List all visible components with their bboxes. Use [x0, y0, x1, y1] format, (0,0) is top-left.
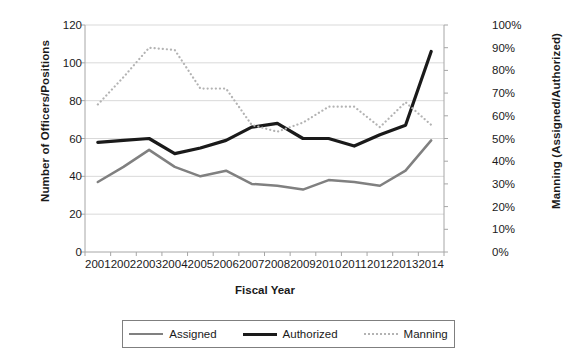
legend-item-authorized: Authorized: [243, 328, 338, 340]
plot-area: [0, 0, 577, 360]
x-axis-tick-label: 2012: [367, 257, 393, 271]
legend-swatch-authorized-icon: [243, 333, 277, 336]
x-axis-tick-label: 2013: [393, 257, 419, 271]
y-axis-left-tick-label: 100: [63, 57, 82, 69]
y-axis-left-tick-label: 80: [69, 95, 82, 107]
y-axis-right-tick-label: 20%: [492, 201, 515, 213]
y-axis-right-tick-label: 60%: [492, 110, 515, 122]
legend-label-authorized: Authorized: [283, 328, 338, 340]
x-axis-tick-label: 2004: [162, 257, 188, 271]
legend-label-manning: Manning: [404, 328, 448, 340]
x-axis-tick-label: 2014: [418, 257, 444, 271]
series-line-manning: [98, 48, 431, 132]
y-axis-right-tick-label: 90%: [492, 42, 515, 54]
y-axis-right-tick-label: 40%: [492, 155, 515, 167]
x-axis-tick-label: 2008: [265, 257, 291, 271]
y-axis-right-tick-label: 30%: [492, 178, 515, 190]
y-axis-left-ticks: 020406080100120: [38, 0, 82, 360]
x-axis-tick-label: 2003: [136, 257, 162, 271]
chart-figure: Number of Officers/Positions Manning (As…: [0, 0, 577, 360]
legend-item-manning: Manning: [364, 328, 448, 340]
x-axis-ticks: 2001200220032004200520062007200820092010…: [0, 257, 577, 277]
y-axis-left-tick-label: 40: [69, 170, 82, 182]
y-axis-right-tick-label: 50%: [492, 133, 515, 145]
y-axis-right-tick-label: 70%: [492, 87, 515, 99]
x-axis-tick-label: 2007: [239, 257, 265, 271]
x-axis-tick-label: 2001: [85, 257, 111, 271]
y-axis-left-tick-label: 120: [63, 19, 82, 31]
legend-swatch-manning-icon: [364, 333, 398, 335]
x-axis-tick-label: 2002: [111, 257, 137, 271]
legend-swatch-assigned-icon: [129, 333, 163, 335]
x-axis-title: Fiscal Year: [85, 284, 445, 296]
x-axis-tick-label: 2009: [290, 257, 316, 271]
legend-label-assigned: Assigned: [169, 328, 216, 340]
y-axis-left-tick-label: 20: [69, 208, 82, 220]
series-line-assigned: [98, 140, 431, 189]
x-axis-tick-label: 2006: [213, 257, 239, 271]
x-axis-tick-label: 2011: [342, 257, 367, 271]
y-axis-right-tick-label: 80%: [492, 64, 515, 76]
x-axis-tick-label: 2010: [316, 257, 342, 271]
y-axis-left-tick-label: 60: [69, 133, 82, 145]
y-axis-right-tick-label: 10%: [492, 223, 515, 235]
chart-legend: Assigned Authorized Manning: [122, 320, 455, 348]
x-axis-tick-label: 2005: [188, 257, 214, 271]
y-axis-right-ticks: 0%10%20%30%40%50%60%70%80%90%100%: [492, 0, 540, 360]
y-axis-right-tick-label: 100%: [492, 19, 521, 31]
y-axis-right-title: Manning (Assigned/Authorized): [550, 6, 562, 236]
legend-item-assigned: Assigned: [129, 328, 216, 340]
